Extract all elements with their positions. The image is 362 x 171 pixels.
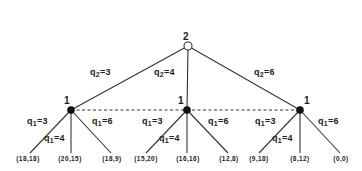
right-action-q1-3: q1=3	[255, 117, 276, 127]
root-node-open-circle	[184, 42, 192, 50]
left-action-q1-6: q1=6	[92, 117, 113, 127]
right-player-label: 1	[304, 96, 310, 106]
root-action-label-left: q2=3	[90, 68, 111, 78]
player1-node-middle	[183, 106, 191, 114]
payoff-middle-q1-4: (16,16)	[176, 156, 199, 163]
right-action-q1-4: q1=4	[272, 134, 293, 144]
payoff-right-q1-4: (8,12)	[290, 156, 309, 163]
player1-node-right	[296, 106, 304, 114]
payoff-right-q1-6: (0,0)	[333, 156, 348, 163]
root-player-label: 2	[183, 32, 189, 42]
player1-node-left	[67, 106, 75, 114]
right-action-q1-6: q1=6	[318, 117, 339, 127]
game-tree-graphic	[0, 0, 362, 171]
edge-root-left	[71, 46, 188, 110]
payoff-middle-q1-6: (12,8)	[219, 156, 238, 163]
left-action-q1-4: q1=4	[44, 134, 65, 144]
left-player-label: 1	[64, 96, 70, 106]
middle-action-q1-3: q1=3	[142, 117, 163, 127]
edge-root-middle	[187, 46, 188, 110]
edge-root-right	[188, 46, 300, 110]
left-action-q1-3: q1=3	[27, 117, 48, 127]
root-action-label-middle: q2=4	[154, 68, 175, 78]
payoff-middle-q1-3: (15,20)	[134, 156, 157, 163]
payoff-right-q1-3: (9,18)	[249, 156, 268, 163]
payoff-left-q1-6: (18,9)	[102, 156, 121, 163]
payoff-left-q1-3: (18,18)	[16, 156, 39, 163]
root-action-label-right: q2=6	[254, 68, 275, 78]
middle-action-q1-4: q1=4	[159, 134, 180, 144]
payoff-left-q1-4: (20,15)	[58, 156, 81, 163]
middle-action-q1-6: q1=6	[208, 117, 229, 127]
middle-player-label: 1	[178, 96, 184, 106]
